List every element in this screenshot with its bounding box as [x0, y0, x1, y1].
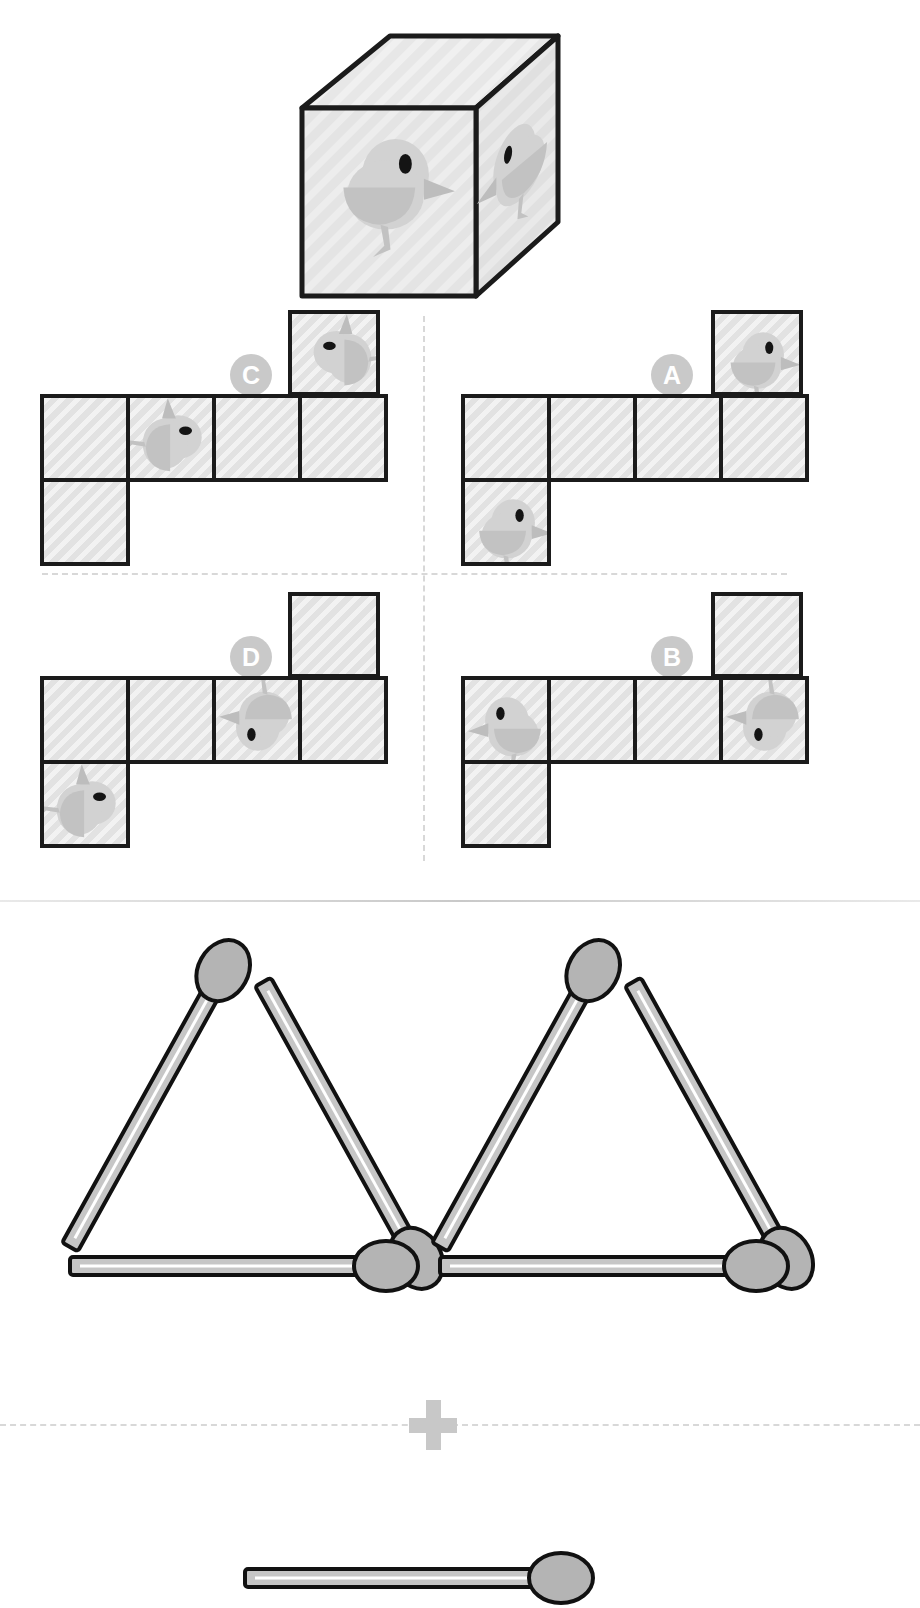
- option-label-B: B: [651, 636, 693, 678]
- net-cell[interactable]: [126, 676, 216, 764]
- net-cell[interactable]: [212, 394, 302, 482]
- net-cell[interactable]: [126, 394, 216, 482]
- net-cell[interactable]: [711, 592, 803, 678]
- bird-icon: [715, 314, 803, 396]
- puzzle-page: C A: [0, 0, 920, 1608]
- option-net-B[interactable]: B: [455, 592, 795, 842]
- option-label-C: C: [230, 354, 272, 396]
- net-cell[interactable]: [461, 760, 551, 848]
- net-cell[interactable]: [547, 394, 637, 482]
- net-cell[interactable]: [461, 478, 551, 566]
- match-stick: [241, 970, 453, 1299]
- bird-icon: [216, 680, 302, 764]
- net-cell[interactable]: [461, 676, 551, 764]
- net-cell[interactable]: [633, 676, 723, 764]
- bird-icon: [723, 680, 809, 764]
- section-separator: [0, 900, 920, 902]
- options-horizontal-divider: [42, 573, 787, 575]
- net-cell[interactable]: [40, 676, 130, 764]
- net-cell[interactable]: [298, 394, 388, 482]
- net-cell[interactable]: [711, 310, 803, 396]
- option-net-A[interactable]: A: [455, 310, 795, 560]
- net-cell[interactable]: [547, 676, 637, 764]
- net-cell[interactable]: [633, 394, 723, 482]
- triangle-right: [418, 931, 823, 1299]
- match-stick: [70, 1241, 418, 1291]
- options-vertical-divider: [423, 316, 425, 861]
- match-stick: [611, 970, 823, 1299]
- bird-icon: [44, 764, 130, 848]
- net-cell[interactable]: [288, 592, 380, 678]
- net-cell[interactable]: [461, 394, 551, 482]
- reference-cube: [290, 30, 570, 300]
- option-label-A: A: [651, 354, 693, 396]
- net-cell[interactable]: [40, 394, 130, 482]
- net-cell[interactable]: [288, 310, 380, 396]
- net-cell[interactable]: [298, 676, 388, 764]
- bird-icon: [465, 482, 551, 566]
- plus-operator-icon: [409, 1400, 457, 1450]
- bird-icon: [130, 398, 216, 482]
- matchstick-figure: [0, 930, 920, 1608]
- option-net-C[interactable]: C: [40, 310, 380, 560]
- net-cell[interactable]: [212, 676, 302, 764]
- triangle-left: [48, 931, 453, 1299]
- match-stick: [48, 931, 260, 1260]
- match-stick: [418, 931, 630, 1260]
- net-cell[interactable]: [40, 478, 130, 566]
- match-stick-bottom: [245, 1553, 593, 1603]
- bird-icon: [465, 680, 551, 764]
- option-label-D: D: [230, 636, 272, 678]
- bird-icon: [292, 314, 380, 396]
- net-cell[interactable]: [40, 760, 130, 848]
- net-cell[interactable]: [719, 676, 809, 764]
- match-stick: [440, 1241, 788, 1291]
- net-cell[interactable]: [719, 394, 809, 482]
- option-net-D[interactable]: D: [40, 592, 380, 842]
